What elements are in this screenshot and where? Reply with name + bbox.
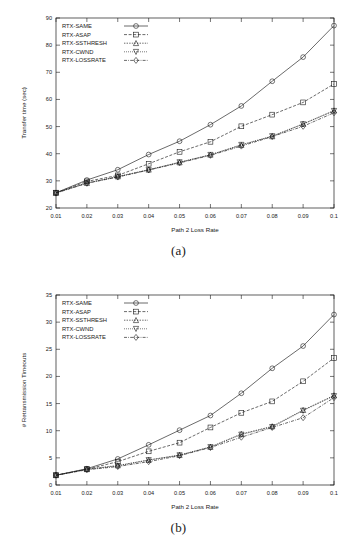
x-tick-label: 0.04 bbox=[143, 213, 154, 219]
x-tick-label: 0.01 bbox=[51, 490, 62, 496]
marker-square bbox=[239, 124, 244, 129]
series-path bbox=[56, 113, 334, 193]
legend-label: RTX-LOSSRATE bbox=[62, 57, 106, 63]
y-tick-label: 50 bbox=[46, 124, 52, 130]
x-tick-label: 0.08 bbox=[267, 213, 278, 219]
subfigure-b: 051015202530350.010.020.030.040.050.060.… bbox=[0, 277, 357, 554]
x-tick-label: 0.03 bbox=[112, 213, 123, 219]
subfigure-caption-a: (a) bbox=[0, 243, 357, 259]
plot-area-a: 20304050607080900.010.020.030.040.050.06… bbox=[0, 0, 357, 245]
x-tick-label: 0.02 bbox=[81, 213, 92, 219]
x-tick-label: 0.07 bbox=[236, 490, 247, 496]
legend-label: RTX-ASAP bbox=[62, 309, 91, 315]
marker-square bbox=[146, 449, 151, 454]
legend-label: RTX-SSTHRESH bbox=[62, 40, 107, 46]
subfigure-caption-b: (b) bbox=[0, 520, 357, 536]
series-path bbox=[56, 111, 334, 193]
chart-b: 051015202530350.010.020.030.040.050.060.… bbox=[0, 277, 357, 522]
series-path bbox=[56, 396, 334, 475]
x-tick-label: 0.09 bbox=[298, 490, 309, 496]
legend: RTX-SAMERTX-ASAPRTX-SSTHRESHRTX-CWNDRTX-… bbox=[62, 23, 148, 63]
x-tick-label: 0.04 bbox=[143, 490, 154, 496]
x-tick-label: 0.01 bbox=[51, 213, 62, 219]
series-rtx-same bbox=[54, 23, 337, 195]
legend-label: RTX-ASAP bbox=[62, 32, 91, 38]
y-tick-label: 30 bbox=[46, 178, 52, 184]
y-tick-label: 25 bbox=[46, 346, 52, 352]
legend-label: RTX-SAME bbox=[62, 300, 92, 306]
y-tick-label: 35 bbox=[46, 292, 52, 298]
y-tick-label: 60 bbox=[46, 96, 52, 102]
y-axis-title: # Retransmission Timeouts bbox=[20, 353, 27, 428]
series-rtx-asap bbox=[54, 82, 337, 196]
legend-label: RTX-SAME bbox=[62, 23, 92, 29]
x-axis-title: Path 2 Loss Rate bbox=[171, 226, 219, 233]
y-tick-label: 0 bbox=[49, 482, 52, 488]
x-tick-label: 0.1 bbox=[330, 213, 338, 219]
x-tick-label: 0.05 bbox=[174, 490, 185, 496]
x-tick-label: 0.03 bbox=[112, 490, 123, 496]
y-tick-label: 20 bbox=[46, 205, 52, 211]
legend: RTX-SAMERTX-ASAPRTX-SSTHRESHRTX-CWNDRTX-… bbox=[62, 300, 148, 340]
legend-label: RTX-SSTHRESH bbox=[62, 317, 107, 323]
x-axis-title: Path 2 Loss Rate bbox=[171, 503, 219, 510]
x-tick-label: 0.1 bbox=[330, 490, 338, 496]
series-rtx-cwnd bbox=[53, 108, 336, 195]
series-rtx-ssthresh bbox=[53, 108, 336, 195]
y-tick-label: 10 bbox=[46, 428, 52, 434]
marker-square bbox=[239, 410, 244, 415]
plot-area-b: 051015202530350.010.020.030.040.050.060.… bbox=[0, 277, 357, 522]
chart-a: 20304050607080900.010.020.030.040.050.06… bbox=[0, 0, 357, 245]
y-tick-label: 70 bbox=[46, 69, 52, 75]
x-tick-label: 0.09 bbox=[298, 213, 309, 219]
y-tick-label: 5 bbox=[49, 455, 52, 461]
y-tick-label: 90 bbox=[46, 15, 52, 21]
legend-label: RTX-LOSSRATE bbox=[62, 334, 106, 340]
y-tick-label: 40 bbox=[46, 151, 52, 157]
series-path bbox=[56, 26, 334, 193]
plot-frame bbox=[56, 295, 334, 485]
marker-square bbox=[177, 440, 182, 445]
marker-square bbox=[270, 399, 275, 404]
series-rtx-asap bbox=[54, 356, 337, 478]
x-tick-label: 0.06 bbox=[205, 490, 216, 496]
y-tick-label: 80 bbox=[46, 42, 52, 48]
x-tick-label: 0.06 bbox=[205, 213, 216, 219]
series-path bbox=[56, 111, 334, 193]
y-axis-title: Transfer time (sec) bbox=[20, 87, 27, 139]
y-tick-label: 20 bbox=[46, 373, 52, 379]
y-tick-label: 30 bbox=[46, 319, 52, 325]
legend-label: RTX-CWND bbox=[62, 49, 93, 55]
figure-container: 20304050607080900.010.020.030.040.050.06… bbox=[0, 0, 357, 555]
x-tick-label: 0.07 bbox=[236, 213, 247, 219]
x-tick-label: 0.02 bbox=[81, 490, 92, 496]
legend-label: RTX-CWND bbox=[62, 326, 93, 332]
series-rtx-cwnd bbox=[53, 394, 336, 478]
y-tick-label: 15 bbox=[46, 401, 52, 407]
series-path bbox=[56, 398, 334, 476]
x-tick-label: 0.08 bbox=[267, 490, 278, 496]
x-tick-label: 0.05 bbox=[174, 213, 185, 219]
series-rtx-lossrate bbox=[54, 110, 337, 196]
subfigure-a: 20304050607080900.010.020.030.040.050.06… bbox=[0, 0, 357, 277]
